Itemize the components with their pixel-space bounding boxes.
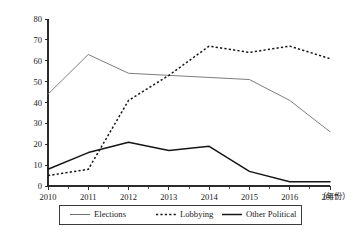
chart-canvas: 01020304050607080 2010201120122013201420… <box>0 0 360 236</box>
y-tick-label: 10 <box>34 160 43 170</box>
y-axis-tick-labels: 01020304050607080 <box>34 14 43 191</box>
x-tick-label: 2012 <box>120 192 137 202</box>
series-line-lobbying <box>48 46 330 175</box>
series-line-other-political <box>48 142 330 182</box>
legend-label-elections: Elections <box>94 209 127 219</box>
x-tick-label: 2011 <box>80 192 97 202</box>
chart-legend: ElectionsLobbyingOther Political <box>59 205 301 224</box>
x-axis-unit-label: （年份） <box>318 191 350 201</box>
legend-items: ElectionsLobbyingOther Political <box>70 209 297 219</box>
y-tick-label: 70 <box>34 35 43 45</box>
y-tick-label: 50 <box>34 77 43 87</box>
legend-label-lobbying: Lobbying <box>180 209 214 219</box>
x-axis-tick-labels: 20102011201220132014201520162017 <box>40 192 339 202</box>
x-tick-label: 2013 <box>160 192 177 202</box>
x-axis: 20102011201220132014201520162017 （年份） <box>40 186 351 202</box>
y-tick-label: 30 <box>34 118 43 128</box>
line-chart: 01020304050607080 2010201120122013201420… <box>0 0 360 236</box>
y-tick-label: 0 <box>38 181 42 191</box>
y-tick-label: 60 <box>34 56 43 66</box>
legend-label-other-political: Other Political <box>246 209 297 219</box>
y-tick-label: 20 <box>34 139 43 149</box>
y-tick-label: 80 <box>34 14 43 24</box>
y-tick-label: 40 <box>34 98 43 108</box>
x-tick-label: 2015 <box>241 192 258 202</box>
y-axis: 01020304050607080 <box>34 14 49 191</box>
series-line-elections <box>48 54 330 131</box>
x-tick-label: 2010 <box>40 192 57 202</box>
series-group <box>48 46 330 182</box>
x-tick-label: 2014 <box>201 192 219 202</box>
x-tick-label: 2016 <box>281 192 298 202</box>
